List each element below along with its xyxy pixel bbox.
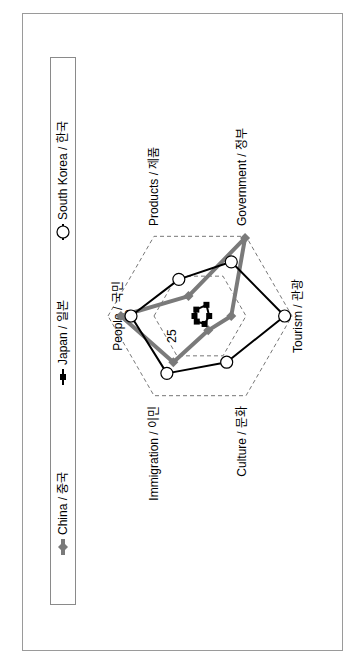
legend-label: China / 중국 bbox=[56, 472, 70, 535]
radar-chart: China / 중국Japan / 일본South Korea / 한국 Peo… bbox=[0, 0, 350, 669]
axis-label-culture: Culture / 문화 bbox=[235, 406, 249, 477]
axis-label-tourism: Tourism / 관광 bbox=[291, 279, 305, 353]
legend-label: South Korea / 한국 bbox=[56, 121, 70, 220]
data-point-marker bbox=[161, 367, 173, 379]
data-point-marker bbox=[202, 321, 208, 327]
axis-label-immigration: Immigration / 이민 bbox=[147, 406, 161, 501]
data-point-marker bbox=[203, 302, 209, 308]
data-point-marker bbox=[194, 319, 200, 325]
axis-label-government: Government / 정부 bbox=[235, 128, 249, 226]
legend-marker-icon bbox=[57, 226, 69, 238]
data-point-marker bbox=[193, 307, 199, 313]
axis-label-products: Products / 제품 bbox=[147, 147, 161, 226]
tick-label-25: 25 bbox=[165, 329, 179, 343]
legend-label: Japan / 일본 bbox=[56, 300, 70, 365]
data-point-marker bbox=[173, 273, 185, 285]
data-point-marker bbox=[206, 313, 212, 319]
data-point-marker bbox=[225, 256, 237, 268]
radar-chart-figure: China / 중국Japan / 일본South Korea / 한국 Peo… bbox=[0, 0, 350, 669]
legend-marker-icon bbox=[60, 374, 66, 380]
data-point-marker bbox=[191, 313, 197, 319]
data-point-marker bbox=[279, 310, 291, 322]
data-point-marker bbox=[221, 356, 233, 368]
legend: China / 중국Japan / 일본South Korea / 한국 bbox=[51, 58, 76, 605]
data-point-marker bbox=[125, 310, 137, 322]
